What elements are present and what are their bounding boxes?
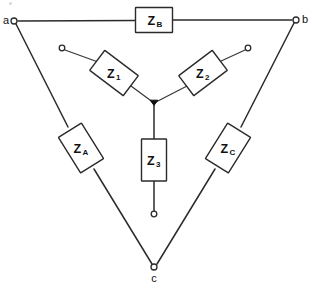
component-zb[interactable]: Z B xyxy=(136,8,173,33)
wire-z2-to-center xyxy=(154,86,187,103)
component-za-subscript: A xyxy=(83,148,89,157)
circuit-diagram: Z B Z A Z C Z 1 xyxy=(0,0,312,288)
wire-a-to-za xyxy=(16,24,68,127)
component-zb-label: Z xyxy=(148,14,156,28)
circuit-canvas: Z B Z A Z C Z 1 xyxy=(0,0,312,288)
component-zc-label: Z xyxy=(221,142,229,156)
node-c-label: c xyxy=(151,272,157,284)
component-z2-subscript: 2 xyxy=(205,73,210,82)
component-z1-subscript: 1 xyxy=(116,73,121,82)
component-z1-label: Z xyxy=(107,67,115,81)
component-z2-label: Z xyxy=(196,67,204,81)
terminal-z3-open[interactable] xyxy=(151,211,157,217)
component-za-label: Z xyxy=(74,142,82,156)
node-c-terminal[interactable] xyxy=(151,264,157,270)
component-z3[interactable]: Z 3 xyxy=(142,139,167,181)
component-zc-subscript: C xyxy=(230,148,236,157)
wire-t2-to-z2 xyxy=(219,50,245,62)
component-zc[interactable]: Z C xyxy=(205,123,250,173)
component-z2[interactable]: Z 2 xyxy=(179,50,228,95)
component-z3-subscript: 3 xyxy=(156,160,161,169)
center-junction-dot xyxy=(150,100,158,105)
component-z3-label: Z xyxy=(147,154,155,168)
component-z1[interactable]: Z 1 xyxy=(90,50,139,95)
node-a-label: a xyxy=(3,14,10,26)
terminal-z1-open[interactable] xyxy=(59,45,65,51)
wire-a-to-zb xyxy=(18,21,136,22)
wire-zc-to-c xyxy=(157,169,215,264)
node-a-terminal[interactable] xyxy=(11,18,17,24)
wire-b-to-zc xyxy=(241,23,294,127)
terminal-z2-open[interactable] xyxy=(245,45,251,51)
node-b-label: b xyxy=(302,13,308,25)
wire-t1-to-z1 xyxy=(65,50,98,62)
node-b-terminal[interactable] xyxy=(293,17,299,23)
component-zb-subscript: B xyxy=(157,20,163,29)
component-za[interactable]: Z A xyxy=(58,123,103,173)
wire-za-to-c xyxy=(94,169,152,264)
center-junction xyxy=(150,100,158,105)
